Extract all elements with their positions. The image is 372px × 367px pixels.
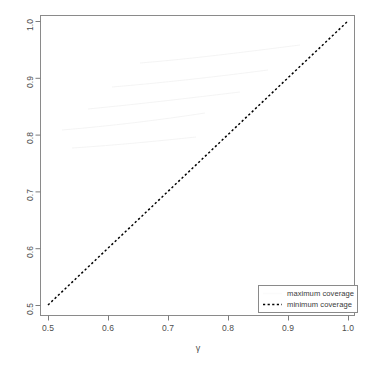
y-axis-ticks [36,22,41,306]
y-tick-label-5: 1.0 [25,1,35,31]
x-tick-label-4: 0.9 [282,323,294,333]
x-axis-title: γ [196,343,201,353]
plot-background [41,16,355,316]
x-tick-label-5: 1.0 [342,323,354,333]
x-tick-label-0: 0.5 [42,323,54,333]
x-axis-ticks [49,316,349,321]
y-tick-label-2: 0.7 [25,171,35,201]
x-tick-label-2: 0.7 [162,323,174,333]
y-tick-label-4: 0.9 [25,58,35,88]
y-tick-label-0: 0.5 [25,285,35,315]
legend-label-maximum-coverage: maximum coverage [287,289,354,298]
legend-label-minimum-coverage: minimum coverage [287,300,352,309]
plot-canvas [0,0,372,367]
chart-figure: 0.5 0.6 0.7 0.8 0.9 1.0 0.5 0.6 0.7 0.8 … [0,0,372,367]
x-tick-label-1: 0.6 [102,323,114,333]
y-tick-label-1: 0.6 [25,228,35,258]
x-tick-label-3: 0.8 [222,323,234,333]
y-tick-label-3: 0.8 [25,114,35,144]
